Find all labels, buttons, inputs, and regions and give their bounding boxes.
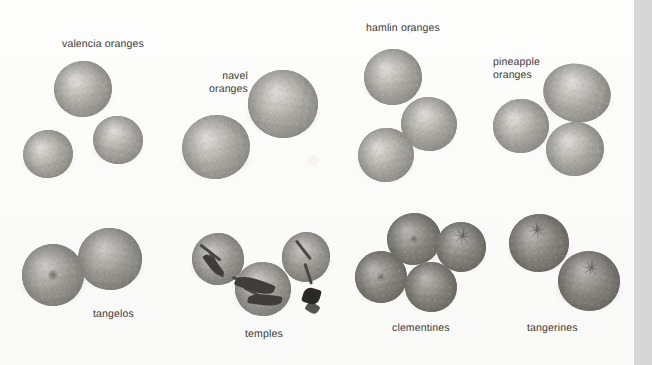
stem-star-icon (525, 218, 550, 243)
caption-valencia: valencia oranges (62, 38, 144, 51)
caption-tangelos: tangelos (93, 308, 134, 321)
caption-tangerines: tangerines (527, 322, 578, 335)
caption-pineapple: pineapple oranges (493, 56, 540, 81)
caption-hamlin: hamlin oranges (366, 22, 440, 35)
caption-temples: temples (245, 328, 283, 341)
right-margin-strip (632, 0, 652, 365)
stem-star-icon (579, 255, 604, 280)
caption-navel: navel oranges (170, 70, 248, 95)
citrus-varieties-plate: valencia orangesnavel orangeshamlin oran… (0, 0, 652, 365)
caption-clementines: clementines (392, 322, 450, 335)
